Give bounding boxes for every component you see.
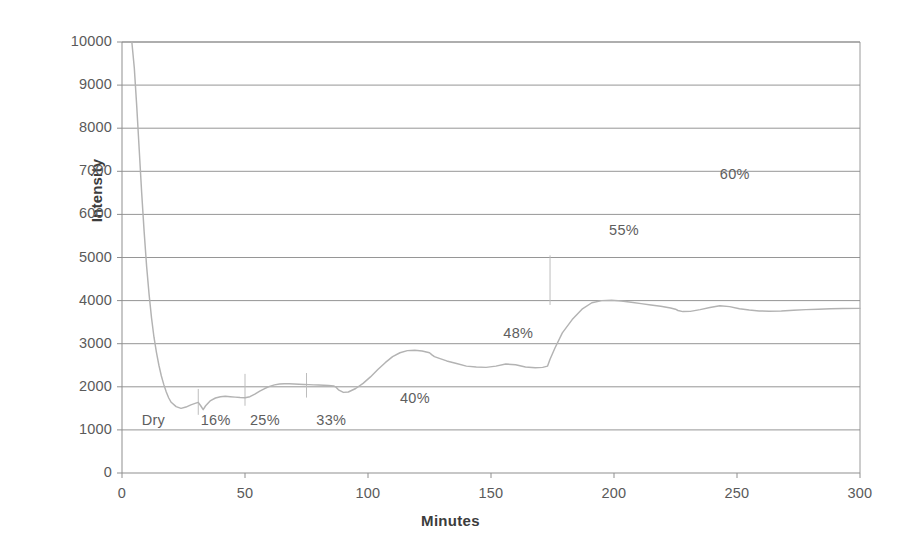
annotation-label: 16% bbox=[201, 412, 231, 428]
x-tick-label: 300 bbox=[830, 485, 890, 501]
x-tick-label: 150 bbox=[461, 485, 521, 501]
x-tick-label: 0 bbox=[92, 485, 152, 501]
y-tick-label: 10000 bbox=[50, 33, 112, 49]
y-tick-label: 6000 bbox=[50, 205, 112, 221]
y-tick-label: 7000 bbox=[50, 162, 112, 178]
annotation-label: 40% bbox=[400, 390, 430, 406]
y-tick-label: 0 bbox=[50, 464, 112, 480]
data-series-line bbox=[132, 42, 860, 410]
y-tick-label: 3000 bbox=[50, 335, 112, 351]
y-tick-label: 5000 bbox=[50, 249, 112, 265]
annotation-label: Dry bbox=[142, 412, 165, 428]
annotation-label: 25% bbox=[250, 412, 280, 428]
y-tick-label: 1000 bbox=[50, 421, 112, 437]
y-tick-label: 8000 bbox=[50, 119, 112, 135]
y-tick-label: 2000 bbox=[50, 378, 112, 394]
plot-area bbox=[0, 0, 901, 555]
annotation-label: 48% bbox=[503, 325, 533, 341]
x-tick-label: 50 bbox=[215, 485, 275, 501]
y-tick-label: 4000 bbox=[50, 292, 112, 308]
chart-container: Intensity Minutes 0100020003000400050006… bbox=[0, 0, 901, 555]
y-tick-label: 9000 bbox=[50, 76, 112, 92]
x-tick-label: 200 bbox=[584, 485, 644, 501]
annotation-label: 60% bbox=[720, 166, 750, 182]
gridlines-group bbox=[122, 42, 860, 430]
x-tick-label: 250 bbox=[707, 485, 767, 501]
step-markers-group bbox=[198, 255, 550, 414]
annotation-label: 33% bbox=[316, 412, 346, 428]
x-tick-label: 100 bbox=[338, 485, 398, 501]
annotation-label: 55% bbox=[609, 222, 639, 238]
